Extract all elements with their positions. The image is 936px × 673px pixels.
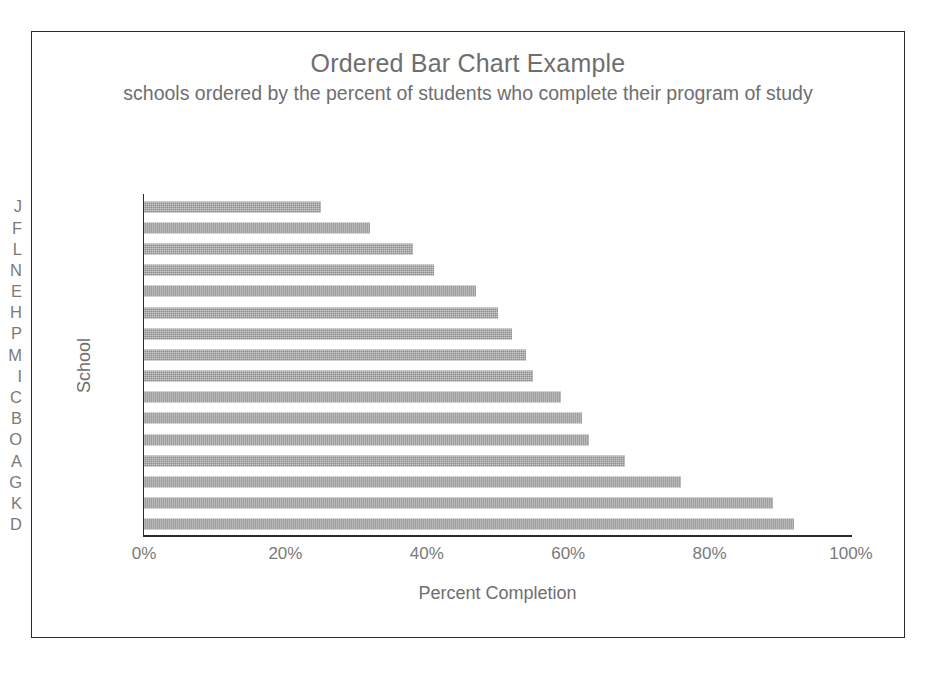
bar-row [144, 260, 851, 281]
screenshot-canvas: Ordered Bar Chart Example schools ordere… [0, 0, 936, 673]
bar-row [144, 387, 851, 408]
y-tick-row: L [0, 238, 24, 259]
bar-J [144, 201, 321, 212]
y-tick-row: E [0, 281, 24, 302]
x-tick-label-0: 0% [132, 544, 157, 564]
y-tick-row: A [0, 450, 24, 471]
y-tick-row: O [0, 429, 24, 450]
y-tick-row: J [0, 196, 24, 217]
bar-row [144, 238, 851, 259]
y-axis-title-text: School [74, 196, 95, 535]
y-tick-row: I [0, 366, 24, 387]
y-tick-label-L: L [13, 241, 24, 258]
bar-row [144, 366, 851, 387]
y-axis-title: School [74, 196, 102, 535]
y-tick-label-M: M [8, 347, 24, 364]
bar-C [144, 392, 561, 403]
bar-row [144, 217, 851, 238]
bar-series [144, 196, 851, 535]
bar-row [144, 493, 851, 514]
bar-E [144, 286, 476, 297]
y-tick-row: K [0, 493, 24, 514]
y-tick-row: C [0, 387, 24, 408]
y-tick-row: B [0, 408, 24, 429]
bar-M [144, 349, 526, 360]
bar-I [144, 371, 533, 382]
bar-G [144, 477, 681, 488]
x-tick-label-60: 60% [551, 544, 585, 564]
y-tick-row: G [0, 471, 24, 492]
bar-A [144, 455, 625, 466]
y-tick-label-P: P [11, 325, 24, 342]
y-axis-tick-labels: JFLNEHPMICBOAGKD [0, 196, 24, 535]
bar-row [144, 344, 851, 365]
bar-row [144, 408, 851, 429]
bar-row [144, 281, 851, 302]
bar-row [144, 196, 851, 217]
y-tick-label-J: J [14, 198, 24, 215]
bar-row [144, 450, 851, 471]
y-tick-label-I: I [17, 368, 24, 385]
bar-F [144, 222, 370, 233]
bar-row [144, 323, 851, 344]
y-tick-label-A: A [11, 453, 24, 470]
y-tick-row: D [0, 514, 24, 535]
y-tick-label-B: B [11, 410, 24, 427]
y-tick-label-D: D [10, 516, 24, 533]
y-tick-row: P [0, 323, 24, 344]
y-tick-label-N: N [10, 262, 24, 279]
bar-row [144, 514, 851, 535]
bar-H [144, 307, 498, 318]
chart-frame: Ordered Bar Chart Example schools ordere… [31, 31, 905, 638]
x-tick-label-20: 20% [268, 544, 302, 564]
y-tick-label-K: K [11, 495, 24, 512]
y-tick-label-E: E [11, 283, 24, 300]
plot-area [144, 196, 851, 535]
chart-title: Ordered Bar Chart Example [32, 49, 904, 77]
y-tick-label-H: H [10, 304, 24, 321]
bar-row [144, 429, 851, 450]
y-tick-label-F: F [12, 220, 24, 237]
bar-P [144, 328, 512, 339]
y-tick-label-G: G [9, 474, 24, 491]
title-block: Ordered Bar Chart Example schools ordere… [32, 49, 904, 107]
y-tick-label-C: C [10, 389, 24, 406]
bar-K [144, 498, 773, 509]
y-tick-row: F [0, 217, 24, 238]
bar-L [144, 243, 413, 254]
chart-subtitle: schools ordered by the percent of studen… [32, 81, 904, 107]
y-tick-row: M [0, 344, 24, 365]
bar-row [144, 302, 851, 323]
y-tick-row: H [0, 302, 24, 323]
x-tick-label-80: 80% [693, 544, 727, 564]
bar-row [144, 471, 851, 492]
bar-B [144, 413, 582, 424]
bar-N [144, 265, 434, 276]
y-tick-label-O: O [9, 431, 24, 448]
x-axis-tick-labels: 0%20%40%60%80%100% [144, 544, 851, 570]
bar-O [144, 434, 589, 445]
x-tick-label-100: 100% [829, 544, 872, 564]
bar-D [144, 519, 794, 530]
x-axis-title: Percent Completion [144, 583, 851, 604]
y-tick-row: N [0, 260, 24, 281]
x-axis-line [143, 535, 852, 537]
x-tick-label-40: 40% [410, 544, 444, 564]
